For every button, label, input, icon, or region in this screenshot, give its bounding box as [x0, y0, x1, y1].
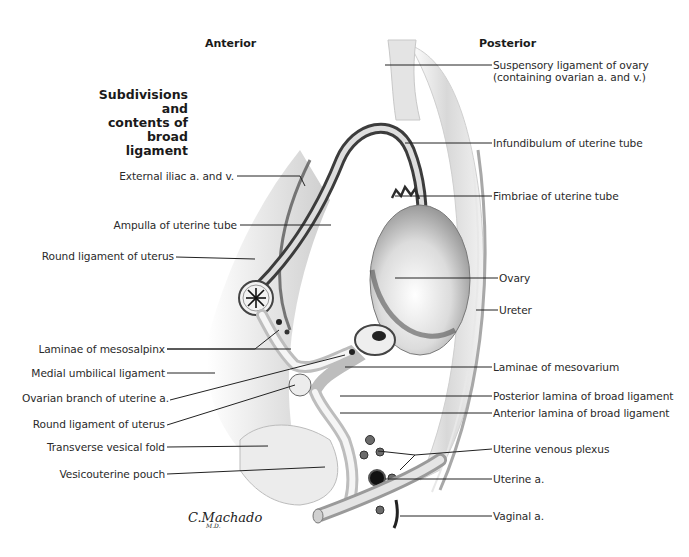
mucosal-folds — [246, 288, 266, 308]
artist-signature: C.Machado M.D. — [188, 510, 262, 529]
label-ovary: Ovary — [499, 272, 530, 284]
label-mesosalpinx: Laminae of mesosalpinx — [38, 343, 165, 355]
label-round-ligament-lower: Round ligament of uterus — [33, 418, 165, 430]
posterior-orientation-label: Posterior — [479, 37, 536, 50]
suspensory-ligament — [388, 40, 420, 120]
label-infundibulum: Infundibulum of uterine tube — [493, 137, 643, 149]
label-medial-umbilical: Medial umbilical ligament — [31, 367, 165, 379]
label-posterior-lamina: Posterior lamina of broad ligament — [493, 390, 673, 402]
label-mesovarium: Laminae of mesovarium — [493, 361, 619, 373]
vesicouterine-pouch — [240, 425, 338, 505]
label-external-iliac: External iliac a. and v. — [119, 170, 234, 182]
anterior-orientation-label: Anterior — [205, 37, 256, 50]
label-ovarian-branch: Ovarian branch of uterine a. — [22, 392, 169, 404]
vaginal-artery — [394, 500, 397, 528]
label-vesicouterine-pouch: Vesicouterine pouch — [59, 468, 165, 480]
label-round-ligament-upper: Round ligament of uterus — [42, 250, 174, 262]
label-transverse-vesical-fold: Transverse vesical fold — [47, 441, 165, 453]
fimbriae — [392, 187, 419, 199]
label-uterine-artery: Uterine a. — [493, 473, 544, 485]
label-vaginal-artery: Vaginal a. — [493, 510, 544, 522]
label-ampulla: Ampulla of uterine tube — [114, 219, 237, 231]
label-suspensory-ligament: Suspensory ligament of ovary — [493, 59, 649, 71]
figure-title: Subdivisions and contents of broad ligam… — [85, 88, 188, 158]
label-suspensory-ligament-contents: (containing ovarian a. and v.) — [493, 71, 646, 83]
title-line-1: Subdivisions and — [85, 88, 188, 116]
title-line-3: broad ligament — [85, 130, 188, 158]
round-ligament-section — [289, 374, 311, 396]
label-ureter: Ureter — [499, 304, 532, 316]
label-anterior-lamina: Anterior lamina of broad ligament — [493, 407, 669, 419]
signature-name: C.Machado — [188, 510, 262, 525]
label-uterine-venous-plexus: Uterine venous plexus — [493, 443, 609, 455]
label-fimbriae: Fimbriae of uterine tube — [493, 190, 619, 202]
title-line-2: contents of — [85, 116, 188, 130]
